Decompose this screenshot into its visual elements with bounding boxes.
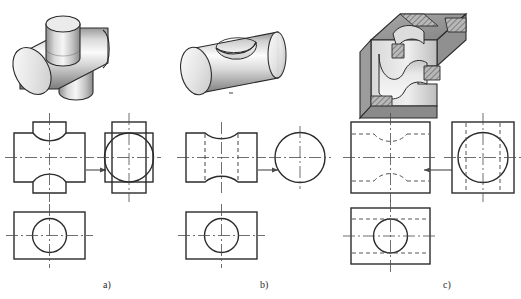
projection-arrow-c <box>424 168 452 173</box>
views-c <box>343 113 521 272</box>
views-b <box>177 122 331 268</box>
pictorial-a-tee-junction <box>5 16 109 101</box>
top-view-circle-in-rect-a <box>6 204 93 268</box>
pictorial-c-sectioned-block <box>360 14 466 118</box>
front-view-cross-shape-a <box>5 113 94 202</box>
front-view-square-hidden-curves-c <box>343 113 438 202</box>
front-view-hourglass-shape-b <box>177 122 266 193</box>
figure-label-b: b) <box>260 279 268 290</box>
top-view-circle-in-rect-hidden-c <box>343 200 438 272</box>
pictorial-b-grooved-cylinder <box>177 32 286 97</box>
views-a <box>5 113 161 268</box>
top-view-circle-in-rect-b <box>178 204 265 268</box>
side-view-circle-b <box>269 126 331 189</box>
side-view-circle-in-square-c <box>444 113 521 202</box>
figure-label-a: a) <box>103 279 111 290</box>
figure-label-c: c) <box>443 279 451 290</box>
projection-arrow-b <box>258 168 278 173</box>
engineering-drawing-canvas <box>0 0 521 299</box>
figure-sheet: a) b) c) <box>0 0 521 299</box>
side-view-circle-in-rect-a <box>97 113 161 202</box>
projection-arrow-a <box>86 168 106 173</box>
